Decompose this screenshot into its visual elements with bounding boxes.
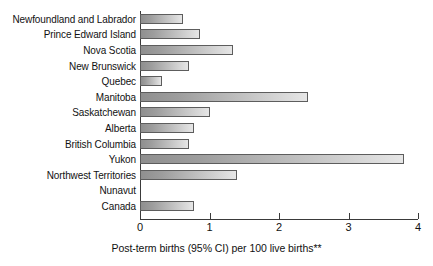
category-label: Prince Edward Island <box>11 28 136 40</box>
category-label: Manitoba <box>11 91 136 103</box>
category-label: Yukon <box>11 153 136 165</box>
x-axis-title: Post-term births (95% CI) per 100 live b… <box>0 242 433 255</box>
x-axis-ticks: 01234 <box>140 0 418 266</box>
x-tick <box>140 213 141 219</box>
x-tick-label: 3 <box>345 221 351 234</box>
category-label: Canada <box>11 200 136 212</box>
x-tick-label: 4 <box>415 221 421 234</box>
x-tick-label: 1 <box>206 221 212 234</box>
x-tick <box>349 213 350 219</box>
category-label: New Brunswick <box>11 60 136 72</box>
category-label: Quebec <box>11 75 136 87</box>
category-label: British Columbia <box>11 138 136 150</box>
category-label: Newfoundland and Labrador <box>11 13 136 25</box>
category-label: Nova Scotia <box>11 44 136 56</box>
category-label: Nunavut <box>11 184 136 196</box>
category-label: Northwest Territories <box>11 169 136 181</box>
x-tick-label: 2 <box>276 221 282 234</box>
bar-chart: Newfoundland and LabradorPrince Edward I… <box>0 0 433 266</box>
category-label: Alberta <box>11 122 136 134</box>
x-tick-label: 0 <box>137 221 143 234</box>
x-tick <box>210 213 211 219</box>
x-tick <box>418 213 419 219</box>
category-label: Saskatchewan <box>11 106 136 118</box>
x-tick <box>279 213 280 219</box>
